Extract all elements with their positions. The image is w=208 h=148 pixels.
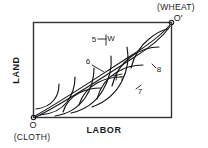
edgeworth-box-figure: LABOR LAND O (CLOTH) O' (WHEAT) 5 W 6 7 … [0,0,208,148]
curve-label-7: 7 [138,87,143,96]
curve-label-8: 8 [157,65,162,74]
diagram-canvas: LABOR LAND O (CLOTH) O' (WHEAT) 5 W 6 7 … [0,0,208,148]
leader-line-8 [152,64,156,68]
x-axis-label: LABOR [87,125,122,135]
curve-label-5: 5 [92,35,97,44]
curve-label-t: T [120,74,125,83]
curve-label-6: 6 [86,57,91,66]
cloth-isoquant-family [36,47,128,116]
y-axis-label: LAND [11,56,21,83]
curve-label-w: W [107,34,115,43]
origin-o-prime-caption: (WHEAT) [157,2,195,12]
origin-o-prime-label: O' [174,13,183,23]
box-frame [34,23,172,118]
origin-o-caption: (CLOTH) [14,132,51,142]
cloth-isoquant-2 [40,77,75,115]
cloth-isoquant-1 [36,84,59,109]
origin-o-label: O [29,120,36,130]
